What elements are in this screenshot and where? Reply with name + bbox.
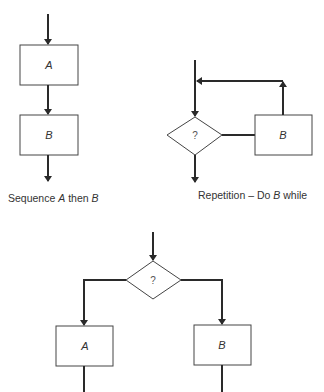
selection-diagram: ? A B [56, 232, 251, 392]
selection-left-branch [84, 280, 126, 325]
selection-decision-label: ? [150, 275, 156, 286]
repetition-caption-prefix: Repetition – Do [198, 189, 273, 201]
selection-box-a-label: A [80, 340, 88, 352]
selection-right-branch [181, 280, 222, 324]
sequence-box-a-label: A [44, 59, 52, 71]
sequence-caption: Sequence A then B [8, 192, 99, 204]
sequence-caption-prefix: Sequence [8, 192, 58, 204]
sequence-box-b-label: B [45, 129, 52, 141]
sequence-caption-b: B [92, 192, 99, 204]
selection-box-b-label: B [218, 339, 225, 351]
repetition-diagram: ? B [167, 60, 312, 182]
sequence-caption-mid: then [65, 192, 91, 204]
repetition-box-b-label: B [279, 129, 286, 141]
repetition-caption-suffix: while [280, 189, 307, 201]
sequence-diagram: A B [20, 14, 78, 181]
repetition-caption: Repetition – Do B while [198, 189, 307, 201]
repetition-decision-label: ? [192, 130, 198, 141]
